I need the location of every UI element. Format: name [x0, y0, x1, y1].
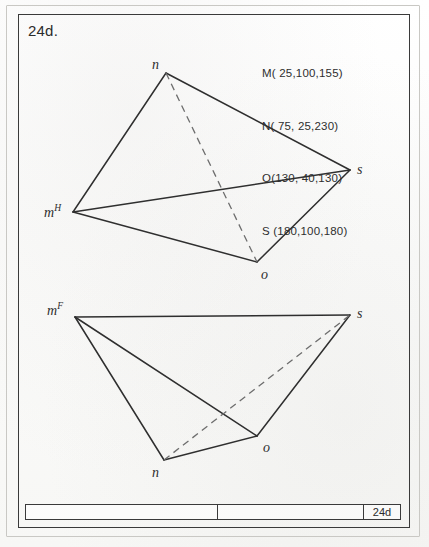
frontal-vertex-label-n: n — [152, 466, 159, 480]
title-block-cell-middle — [218, 505, 364, 519]
horizontal-vertex-label-n: n — [152, 58, 159, 72]
hidden-edge-no — [166, 73, 257, 262]
edge-mo — [75, 317, 257, 436]
horizontal-vertex-label-s: s — [357, 163, 362, 177]
edge-ns — [166, 73, 350, 170]
horizontal-vertex-label-m: mH — [44, 204, 61, 220]
edge-ms — [75, 315, 350, 317]
frontal-vertex-label-o: o — [263, 441, 270, 455]
projection-drawing-canvas — [0, 0, 429, 547]
frontal-vertex-label-m: mF — [47, 302, 63, 318]
edge-no — [164, 436, 257, 460]
horizontal-projection-superscript-m: H — [54, 203, 61, 213]
edge-os — [257, 315, 350, 436]
edge-mn — [75, 317, 164, 460]
drawing-sheet: 24d. M( 25,100,155) N( 75, 25,230) O(130… — [0, 0, 429, 547]
frontal-vertex-label-s: s — [357, 307, 362, 321]
hidden-edge-ns — [164, 315, 350, 460]
title-block: 24d — [25, 504, 401, 520]
title-block-number-cell: 24d — [364, 505, 400, 519]
edge-so — [257, 170, 350, 262]
edge-om — [73, 212, 257, 262]
horizontal-projection-view — [73, 73, 350, 262]
title-block-cell-left — [26, 505, 218, 519]
frontal-projection-view — [75, 315, 350, 460]
frontal-projection-superscript-m: F — [57, 301, 63, 311]
edge-ms — [73, 170, 350, 212]
edge-mn — [73, 73, 166, 212]
horizontal-vertex-label-o: o — [261, 268, 268, 282]
